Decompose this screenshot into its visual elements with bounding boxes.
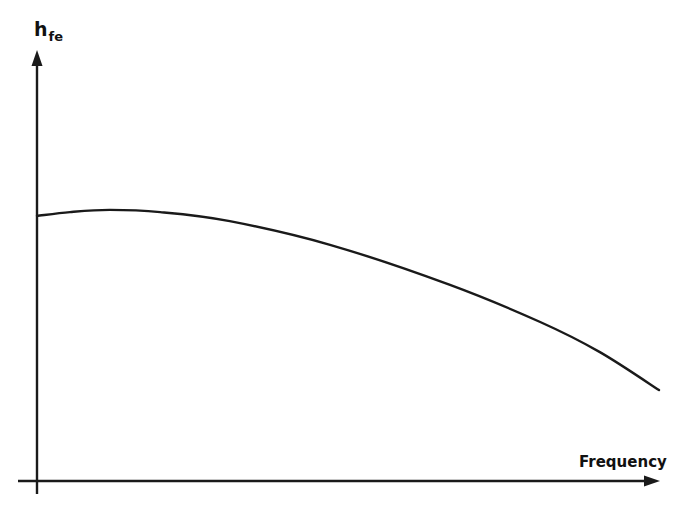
- hfe-curve: [37, 210, 659, 390]
- chart-canvas: [0, 0, 695, 515]
- y-axis-label-subscript: fe: [49, 29, 63, 44]
- x-axis-label: Frequency: [579, 455, 667, 470]
- y-axis-label-main: h: [34, 18, 48, 40]
- y-axis-arrow-icon: [32, 50, 43, 66]
- y-axis-label: hfe: [34, 20, 63, 39]
- x-axis-arrow-icon: [644, 476, 660, 487]
